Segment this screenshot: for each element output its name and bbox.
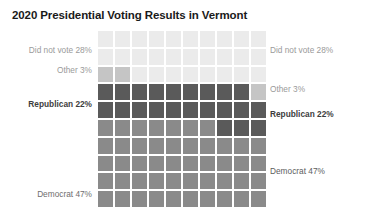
waffle-cell <box>199 155 216 173</box>
waffle-cell <box>199 119 216 137</box>
waffle-cell <box>114 66 131 84</box>
waffle-cell <box>114 172 131 190</box>
waffle-cell <box>97 30 114 48</box>
waffle-cell <box>250 66 267 84</box>
waffle-cell <box>97 172 114 190</box>
waffle-cell <box>148 66 165 84</box>
waffle-cell <box>199 83 216 101</box>
waffle-cell <box>131 137 148 155</box>
waffle-cell <box>199 137 216 155</box>
waffle-cell <box>114 48 131 66</box>
waffle-cell <box>233 137 250 155</box>
waffle-cell <box>216 190 233 208</box>
waffle-cell <box>165 172 182 190</box>
waffle-cell <box>165 66 182 84</box>
waffle-cell <box>148 190 165 208</box>
waffle-cell <box>131 155 148 173</box>
waffle-cell <box>182 83 199 101</box>
chart-title: 2020 Presidential Voting Results in Verm… <box>12 9 247 21</box>
label-left-democrat: Democrat 47% <box>0 190 92 199</box>
waffle-cell <box>114 155 131 173</box>
waffle-cell <box>233 48 250 66</box>
waffle-cell <box>165 190 182 208</box>
waffle-cell <box>165 101 182 119</box>
waffle-cell <box>148 48 165 66</box>
waffle-cell <box>148 30 165 48</box>
waffle-cell <box>199 66 216 84</box>
waffle-cell <box>250 137 267 155</box>
waffle-cell <box>131 172 148 190</box>
label-right-other: Other 3% <box>270 85 365 94</box>
waffle-cell <box>216 172 233 190</box>
waffle-cell <box>131 66 148 84</box>
waffle-cell <box>233 101 250 119</box>
waffle-cell <box>182 137 199 155</box>
waffle-cell <box>182 119 199 137</box>
waffle-cell <box>182 30 199 48</box>
waffle-cell <box>97 83 114 101</box>
waffle-cell <box>182 190 199 208</box>
waffle-cell <box>97 155 114 173</box>
waffle-cell <box>199 30 216 48</box>
waffle-cell <box>250 83 267 101</box>
waffle-cell <box>131 48 148 66</box>
waffle-cell <box>165 48 182 66</box>
waffle-chart-grid <box>97 30 267 208</box>
waffle-cell <box>250 190 267 208</box>
waffle-cell <box>216 101 233 119</box>
waffle-cell <box>114 190 131 208</box>
waffle-cell <box>97 137 114 155</box>
waffle-cell <box>131 119 148 137</box>
waffle-cell <box>216 83 233 101</box>
waffle-cell <box>216 137 233 155</box>
waffle-cell <box>233 119 250 137</box>
waffle-cell <box>216 155 233 173</box>
waffle-cell <box>165 30 182 48</box>
waffle-cell <box>182 172 199 190</box>
waffle-cell <box>199 48 216 66</box>
waffle-cell <box>148 137 165 155</box>
waffle-cell <box>165 155 182 173</box>
waffle-cell <box>97 119 114 137</box>
waffle-cell <box>216 66 233 84</box>
waffle-cell <box>199 101 216 119</box>
waffle-cell <box>148 155 165 173</box>
waffle-cell <box>182 101 199 119</box>
waffle-cell <box>131 101 148 119</box>
waffle-cell <box>216 30 233 48</box>
waffle-cell <box>148 83 165 101</box>
waffle-cell <box>97 101 114 119</box>
waffle-cell <box>199 172 216 190</box>
waffle-cell <box>182 66 199 84</box>
waffle-cell <box>131 30 148 48</box>
waffle-cell <box>250 101 267 119</box>
waffle-cell <box>97 66 114 84</box>
label-left-did-not-vote: Did not vote 28% <box>0 46 92 55</box>
waffle-cell <box>199 190 216 208</box>
label-right-did-not-vote: Did not vote 28% <box>270 46 365 55</box>
label-right-republican: Republican 22% <box>270 110 365 119</box>
chart-page: 2020 Presidential Voting Results in Verm… <box>0 0 365 216</box>
waffle-cell <box>114 83 131 101</box>
waffle-cell <box>216 48 233 66</box>
waffle-cell <box>233 190 250 208</box>
waffle-cell <box>114 119 131 137</box>
waffle-cell <box>148 172 165 190</box>
waffle-cell <box>216 119 233 137</box>
waffle-cell <box>131 83 148 101</box>
waffle-cell <box>182 48 199 66</box>
waffle-cell <box>182 155 199 173</box>
waffle-cell <box>233 172 250 190</box>
label-left-republican: Republican 22% <box>0 100 92 109</box>
waffle-cell <box>114 101 131 119</box>
waffle-cell <box>165 137 182 155</box>
waffle-cell <box>165 119 182 137</box>
waffle-cell <box>148 101 165 119</box>
waffle-cell <box>114 137 131 155</box>
waffle-cell <box>131 190 148 208</box>
waffle-cell <box>97 48 114 66</box>
waffle-cell <box>250 155 267 173</box>
waffle-cell <box>148 119 165 137</box>
waffle-cell <box>233 66 250 84</box>
waffle-cell <box>250 48 267 66</box>
